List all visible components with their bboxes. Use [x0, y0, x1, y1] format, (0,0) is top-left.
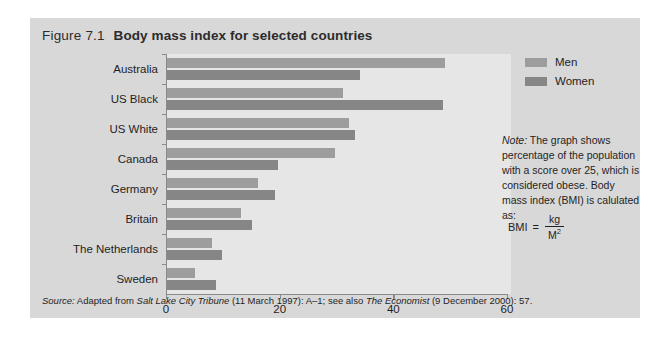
bar-women	[167, 250, 222, 260]
bar-group: Germany	[167, 178, 511, 200]
y-axis-label: The Netherlands	[73, 244, 158, 256]
bar-men	[167, 58, 445, 68]
page-title: Figure 7.1 Body mass index for selected …	[42, 28, 372, 43]
y-axis-label: Britain	[125, 214, 158, 226]
bar-group: Canada	[167, 148, 511, 170]
bar-men	[167, 88, 343, 98]
y-axis-label: Canada	[118, 154, 158, 166]
bar-men	[167, 178, 258, 188]
source-part1: Adapted from	[75, 295, 137, 306]
source-italic-1: Salt Lake City Tribune	[137, 295, 230, 306]
y-axis-label: Australia	[113, 64, 158, 76]
y-axis-tick	[162, 84, 167, 85]
source-lead: Source:	[42, 295, 75, 306]
bar-women	[167, 220, 252, 230]
legend-swatch-men	[525, 58, 547, 67]
bmi-formula: BMI = kg M2	[508, 214, 564, 241]
note-text: The graph shows percentage of the popula…	[502, 134, 639, 221]
y-axis-tick	[162, 234, 167, 235]
figure-number: Figure 7.1	[42, 28, 105, 43]
legend-item: Men	[525, 56, 594, 68]
legend-label: Women	[555, 75, 594, 87]
source-part2: (11 March 1997): A–1; see also	[229, 295, 366, 306]
figure-frame: Figure 7.1 Body mass index for selected …	[30, 18, 640, 318]
bar-group: US White	[167, 118, 511, 140]
y-axis-tick	[162, 54, 167, 55]
bar-men	[167, 238, 212, 248]
y-axis-label: US Black	[111, 94, 158, 106]
bmi-formula-equals: =	[533, 221, 539, 233]
y-axis-tick	[162, 114, 167, 115]
bar-women	[167, 280, 216, 290]
source-line: Source: Adapted from Salt Lake City Trib…	[42, 295, 532, 306]
bmi-denominator-base: M	[548, 229, 557, 241]
source-italic-2: The Economist	[366, 295, 429, 306]
note-block: Note: The graph shows percentage of the …	[502, 133, 642, 222]
bar-women	[167, 130, 355, 140]
bmi-formula-fraction: kg M2	[545, 214, 564, 241]
bar-men	[167, 268, 195, 278]
y-axis-label: Germany	[111, 184, 158, 196]
bar-group: Sweden	[167, 268, 511, 290]
bar-group: Britain	[167, 208, 511, 230]
bar-group: US Black	[167, 88, 511, 110]
bmi-formula-lhs: BMI	[508, 221, 528, 233]
bmi-denominator-exponent: 2	[557, 227, 561, 236]
source-part3: (9 December 2000): 57.	[429, 295, 532, 306]
bar-group: The Netherlands	[167, 238, 511, 260]
bar-women	[167, 160, 278, 170]
bar-men	[167, 208, 241, 218]
chart-legend: MenWomen	[525, 56, 594, 94]
y-axis-tick	[162, 144, 167, 145]
y-axis-tick	[162, 174, 167, 175]
y-axis-label: US White	[109, 124, 158, 136]
bar-women	[167, 70, 360, 80]
figure-caption: Body mass index for selected countries	[114, 28, 373, 43]
bar-women	[167, 100, 443, 110]
bar-group: Australia	[167, 58, 511, 80]
note-lead: Note:	[502, 134, 527, 146]
bar-men	[167, 148, 335, 158]
legend-swatch-women	[525, 77, 547, 86]
legend-item: Women	[525, 75, 594, 87]
y-axis-tick	[162, 204, 167, 205]
legend-label: Men	[555, 56, 577, 68]
bar-men	[167, 118, 349, 128]
bar-women	[167, 190, 275, 200]
bmi-formula-denominator: M2	[545, 226, 564, 241]
y-axis-tick	[162, 264, 167, 265]
y-axis-label: Sweden	[116, 274, 158, 286]
bmi-formula-numerator: kg	[546, 214, 563, 226]
chart-plot-area: AustraliaUS BlackUS WhiteCanadaGermanyBr…	[166, 54, 511, 294]
